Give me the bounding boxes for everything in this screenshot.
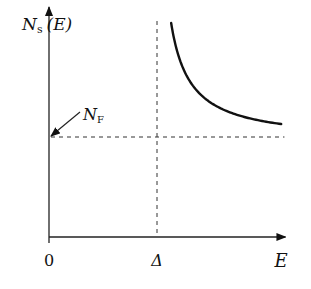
nf-label-main: N — [82, 105, 98, 124]
x-tick-label-delta: Δ — [150, 251, 163, 270]
y-label-main: N — [21, 14, 38, 34]
nf-label: NF — [82, 105, 104, 125]
nf-annotation-arrow — [51, 112, 80, 136]
y-label-arg: (E) — [47, 14, 73, 34]
nf-label-sub: F — [97, 114, 104, 125]
dos-diagram: Ns(E) NF 0 Δ E — [0, 0, 311, 289]
y-axis-label: Ns(E) — [21, 14, 72, 36]
x-tick-label-0: 0 — [44, 251, 54, 270]
x-axis-label: E — [273, 250, 287, 271]
y-label-sub: s — [37, 23, 43, 36]
dos-curve — [171, 23, 281, 124]
